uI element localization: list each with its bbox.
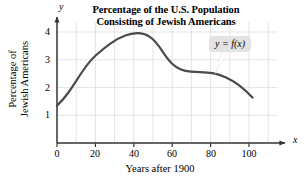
- y-tick-label-4: 4: [36, 26, 50, 37]
- y-tick-label-1: 1: [36, 109, 50, 120]
- x-tick-label-60: 60: [162, 148, 182, 159]
- x-tick-label-100: 100: [239, 148, 259, 159]
- chart-title-line2: Consisting of Jewish Americans: [66, 16, 266, 28]
- y-tick-label-3: 3: [36, 54, 50, 65]
- curve-equation-callout: y = f(x): [209, 36, 251, 52]
- axis-lines: [57, 17, 285, 143]
- chart-title: Percentage of the U.S. Population Consis…: [66, 4, 266, 28]
- y-tick-label-2: 2: [36, 82, 50, 93]
- x-tick-label-20: 20: [85, 148, 105, 159]
- chart-figure: Percentage of the U.S. Population Consis…: [0, 0, 308, 184]
- callout-leader-icon: [216, 51, 229, 74]
- x-tick-label-40: 40: [124, 148, 144, 159]
- x-tick-label-0: 0: [47, 148, 67, 159]
- x-axis-title: Years after 1900: [60, 163, 260, 174]
- y-axis-title-line1: Percentage of: [7, 19, 19, 139]
- y-axis-letter: y: [59, 1, 63, 12]
- chart-title-line1: Percentage of the U.S. Population: [66, 4, 266, 16]
- y-axis-title: Percentage of Jewish Americans: [7, 19, 31, 139]
- x-tick-label-80: 80: [201, 148, 221, 159]
- x-axis-letter: x: [293, 134, 297, 145]
- y-axis-title-line2: Jewish Americans: [19, 19, 31, 139]
